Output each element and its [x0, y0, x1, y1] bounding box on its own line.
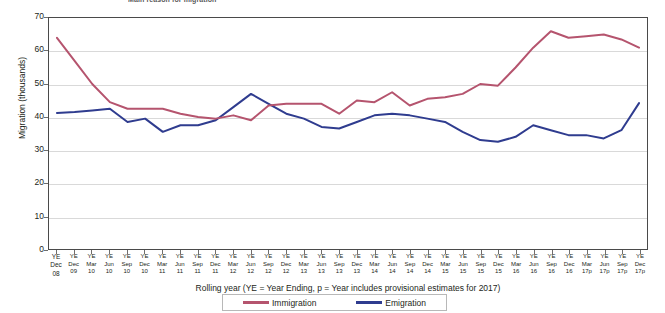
plot-area — [48, 17, 648, 250]
legend-label-emigration: Emigration — [385, 298, 426, 308]
y-axis-tick-label: 20 — [22, 178, 44, 187]
chart-title-fragment: Main reason for migration — [128, 0, 428, 5]
x-axis-title: Rolling year (YE = Year Ending, p = Year… — [48, 283, 648, 293]
chart-legend: Immigration Emigration — [222, 294, 447, 311]
migration-line-chart: Main reason for migration Migration (tho… — [0, 0, 665, 313]
y-axis-tick-label: 0 — [22, 245, 44, 254]
y-axis-tick-label: 30 — [22, 145, 44, 154]
y-axis-tick-label: 10 — [22, 212, 44, 221]
y-axis-tick-label: 60 — [22, 45, 44, 54]
legend-label-immigration: Immigration — [272, 298, 316, 308]
x-axis-tick-label: YE Dec 17p — [629, 253, 651, 276]
immigration-line — [57, 31, 639, 120]
y-axis-tick-label: 50 — [22, 79, 44, 88]
legend-item-immigration[interactable]: Immigration — [243, 298, 316, 308]
emigration-color-swatch-icon — [356, 301, 382, 303]
y-axis-tick-group: 010203040506070 — [20, 0, 44, 313]
emigration-line — [57, 94, 639, 142]
legend-item-emigration[interactable]: Emigration — [356, 298, 426, 308]
y-axis-tick-label: 70 — [22, 12, 44, 21]
y-axis-tick-label: 40 — [22, 112, 44, 121]
series-group — [49, 18, 647, 249]
immigration-color-swatch-icon — [243, 301, 269, 303]
x-axis-label-group: YE Dec 08YE Dec 09YE Mar 10YE Jun 10YE S… — [48, 253, 648, 281]
